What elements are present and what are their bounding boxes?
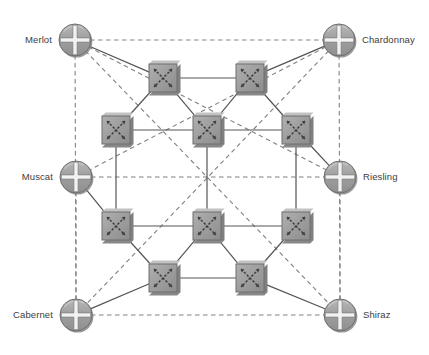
switch-node-sw-bottom-left[interactable] xyxy=(149,261,181,296)
router-node-muscat[interactable] xyxy=(60,161,93,195)
switch-node-sw-upper-right[interactable] xyxy=(282,113,314,148)
switch-node-sw-bottom-right[interactable] xyxy=(236,261,268,296)
topology-svg: MerlotChardonnayMuscatRieslingCabernetSh… xyxy=(0,0,429,355)
network-diagram-canvas: MerlotChardonnayMuscatRieslingCabernetSh… xyxy=(0,0,429,355)
router-label-cabernet: Cabernet xyxy=(13,309,53,320)
router-node-merlot[interactable] xyxy=(59,24,92,58)
router-label-riesling: Riesling xyxy=(363,171,398,182)
switch-node-sw-lower-center[interactable] xyxy=(193,209,225,244)
switch-node-sw-upper-center[interactable] xyxy=(193,113,225,148)
router-node-chardonnay[interactable] xyxy=(323,24,356,58)
switch-node-sw-top-right[interactable] xyxy=(236,61,268,96)
router-label-merlot: Merlot xyxy=(25,34,52,45)
switch-node-sw-lower-left[interactable] xyxy=(102,209,134,244)
router-label-chardonnay: Chardonnay xyxy=(362,34,415,45)
router-label-muscat: Muscat xyxy=(22,171,53,182)
solid-link-sw-top-right-to-sw-upper-right xyxy=(262,91,285,116)
solid-link-muscat-to-sw-lower-left xyxy=(85,189,105,213)
solid-link-merlot-to-sw-top-left xyxy=(89,46,150,72)
router-label-shiraz: Shiraz xyxy=(363,309,391,320)
solid-link-chardonnay-to-sw-top-right xyxy=(263,46,325,73)
router-node-cabernet[interactable] xyxy=(60,299,93,333)
switch-node-sw-lower-right[interactable] xyxy=(282,209,314,244)
solid-link-cabernet-to-sw-bottom-left xyxy=(90,284,150,310)
solid-link-sw-top-left-to-sw-upper-center xyxy=(174,91,196,117)
switch-node-sw-top-left[interactable] xyxy=(149,61,181,96)
switch-node-sw-upper-left[interactable] xyxy=(102,113,134,148)
router-node-shiraz[interactable] xyxy=(324,299,357,333)
solid-link-sw-lower-left-to-sw-bottom-left xyxy=(128,239,151,264)
solid-link-shiraz-to-sw-bottom-right xyxy=(263,283,326,309)
router-node-riesling[interactable] xyxy=(324,161,357,195)
